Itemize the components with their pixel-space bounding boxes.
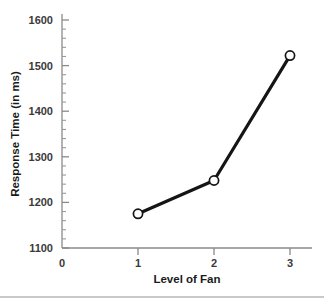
x-tick-label: 3 <box>287 257 293 269</box>
data-line-path <box>138 56 290 214</box>
x-axis: 0123 <box>59 248 312 269</box>
x-axis-title: Level of Fan <box>153 273 220 285</box>
y-tick-label: 1400 <box>29 105 53 117</box>
data-point-marker-3 <box>285 51 294 60</box>
x-tick-label: 1 <box>135 257 141 269</box>
y-tick-label: 1100 <box>29 242 53 254</box>
y-tick-label: 1600 <box>29 14 53 26</box>
y-axis: 160015001400130012001100 <box>29 14 69 254</box>
data-series-response-time <box>133 51 294 218</box>
y-tick-label: 1200 <box>29 196 53 208</box>
y-tick-label: 1300 <box>29 151 53 163</box>
y-axis-title: Response Time (in ms) <box>9 71 21 197</box>
y-tick-label: 1500 <box>29 60 53 72</box>
x-tick-label: 0 <box>59 257 65 269</box>
data-point-marker-1 <box>133 209 142 218</box>
data-point-marker-2 <box>209 176 218 185</box>
x-tick-label: 2 <box>211 257 217 269</box>
line-chart-figure: 160015001400130012001100 0123 Response T… <box>0 0 324 298</box>
chart-canvas: 160015001400130012001100 0123 Response T… <box>0 0 324 298</box>
